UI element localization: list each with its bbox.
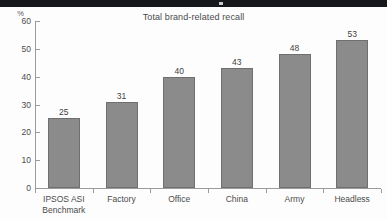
x-tick-3: [208, 189, 209, 193]
y-tick-20: [36, 132, 40, 133]
y-tick-label-50: 50: [22, 44, 31, 54]
x-tick-1: [93, 189, 94, 193]
bar: [48, 118, 80, 188]
bar-value-label: 40: [150, 66, 208, 76]
top-band-artifact: [219, 2, 223, 5]
y-tick-40: [36, 77, 40, 78]
bar-value-label: 25: [35, 107, 93, 117]
x-tick-2: [150, 189, 151, 193]
category-label: Headless: [320, 194, 384, 205]
category-label: Factory: [90, 194, 154, 205]
bar: [336, 40, 368, 188]
y-tick-label-30: 30: [22, 100, 31, 110]
y-tick-0: [36, 188, 40, 189]
chart-title: Total brand-related recall: [0, 12, 387, 22]
y-tick-30: [36, 105, 40, 106]
y-tick-60: [36, 21, 40, 22]
x-tick-4: [266, 189, 267, 193]
y-tick-label-60: 60: [22, 16, 31, 26]
bar-value-label: 43: [208, 57, 266, 67]
y-tick-label-0: 0: [26, 183, 31, 193]
x-tick-0: [35, 189, 36, 193]
category-label: IPSOS ASI Benchmark: [32, 194, 96, 215]
y-tick-label-20: 20: [22, 127, 31, 137]
x-tick-5: [323, 189, 324, 193]
bar: [279, 54, 311, 188]
slide-canvas: Total brand-related recall % 01020304050…: [0, 0, 387, 221]
bar-value-label: 48: [266, 43, 324, 53]
bar-value-label: 53: [323, 29, 381, 39]
bar: [106, 102, 138, 188]
category-label: China: [205, 194, 269, 205]
bar-chart: Total brand-related recall % 01020304050…: [0, 7, 387, 221]
x-tick-6: [381, 189, 382, 193]
y-tick-label-40: 40: [22, 72, 31, 82]
category-label: Office: [147, 194, 211, 205]
bar: [163, 77, 195, 188]
y-tick-label-10: 10: [22, 155, 31, 165]
bar-value-label: 31: [93, 91, 151, 101]
category-label: Army: [263, 194, 327, 205]
y-tick-10: [36, 160, 40, 161]
top-dark-band: [0, 0, 387, 7]
bar: [221, 68, 253, 188]
y-tick-50: [36, 49, 40, 50]
